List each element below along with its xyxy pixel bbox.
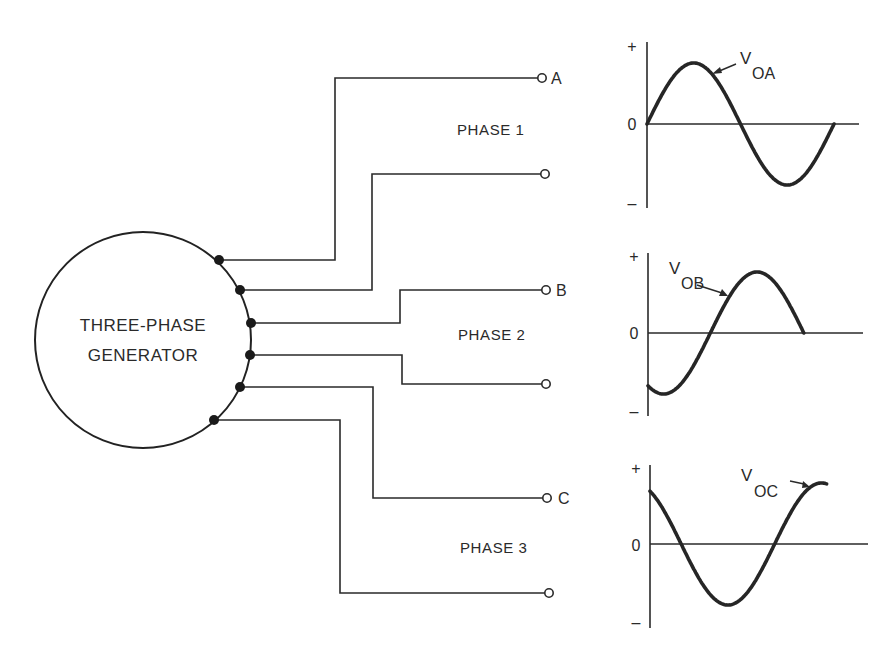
waveform-a-label-sub: OA	[752, 65, 775, 82]
phase-2-label: PHASE 2	[458, 326, 526, 343]
phase-3-wires	[214, 387, 545, 593]
waveform-c-label-sub: OC	[754, 483, 778, 500]
waveform-b-zero-label: 0	[630, 325, 639, 342]
terminal-phase1-return	[541, 170, 549, 178]
generator-label-line1: THREE-PHASE	[80, 316, 206, 335]
waveform-voa: + 0 – V OA	[627, 38, 859, 212]
waveform-c-minus-label: –	[632, 614, 641, 631]
terminals: A B C	[538, 70, 570, 597]
waveform-c-arrowhead-icon	[802, 481, 810, 488]
waveform-c-label-main: V	[741, 466, 753, 485]
tap-dot	[214, 255, 224, 265]
tap-dot	[246, 318, 256, 328]
terminal-b	[542, 286, 550, 294]
terminal-phase2-return	[542, 380, 550, 388]
tap-dot	[245, 350, 255, 360]
waveform-c-plus-label: +	[631, 460, 640, 477]
waveform-a-zero-label: 0	[628, 116, 637, 133]
waveform-b-plus-label: +	[629, 248, 638, 265]
terminal-label-b: B	[556, 282, 567, 299]
phase-3-label: PHASE 3	[460, 539, 528, 556]
tap-dot	[235, 285, 245, 295]
phase-1-wires	[219, 78, 541, 290]
waveform-a-plus-label: +	[627, 38, 636, 55]
tap-dot	[235, 382, 245, 392]
terminal-label-c: C	[558, 490, 570, 507]
waveform-a-minus-label: –	[628, 195, 637, 212]
waveform-b-label-sub: OB	[681, 275, 704, 292]
wire-phase2-b	[251, 290, 542, 323]
wire-phase2-return	[250, 355, 542, 384]
waveform-c-zero-label: 0	[632, 537, 641, 554]
waveform-b-minus-label: –	[630, 403, 639, 420]
wire-phase1-a	[219, 78, 538, 260]
waveform-voc: + 0 – V OC	[631, 460, 868, 631]
generator-label-line2: GENERATOR	[88, 346, 199, 365]
waveform-b-label-main: V	[669, 259, 681, 278]
waveform-c-pointer	[790, 481, 804, 484]
terminal-c	[543, 494, 551, 502]
waveform-a-label-main: V	[740, 49, 752, 68]
phase-1-label: PHASE 1	[457, 121, 525, 138]
waveform-a-arrowhead-icon	[712, 67, 722, 74]
terminal-a	[538, 74, 546, 82]
wire-phase3-c	[240, 387, 543, 498]
three-phase-diagram: THREE-PHASE GENERATOR A B C PHASE 1 PHA	[0, 0, 893, 649]
terminal-label-a: A	[551, 70, 562, 87]
terminal-phase3-return	[545, 589, 553, 597]
tap-dot	[209, 415, 219, 425]
wire-phase1-return	[240, 174, 541, 290]
waveform-vob: + 0 – V OB	[629, 248, 863, 420]
wire-phase3-return	[214, 420, 545, 593]
